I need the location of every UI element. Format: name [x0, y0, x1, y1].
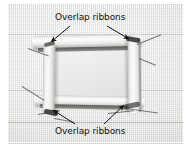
overlap-ribbons-label-bottom: Overlap ribbons	[55, 126, 125, 137]
photograph: Overlap ribbons Overlap ribbons	[8, 4, 183, 142]
loose-thread	[54, 118, 74, 122]
ribbon-right-edge-shadow	[139, 38, 143, 112]
figure-root: Overlap ribbons Overlap ribbons	[0, 0, 191, 148]
ribbon-frame	[8, 4, 183, 142]
overlap-ribbons-label-top: Overlap ribbons	[55, 12, 125, 23]
loose-thread	[22, 86, 45, 101]
figure-bottom-rule	[8, 143, 183, 144]
